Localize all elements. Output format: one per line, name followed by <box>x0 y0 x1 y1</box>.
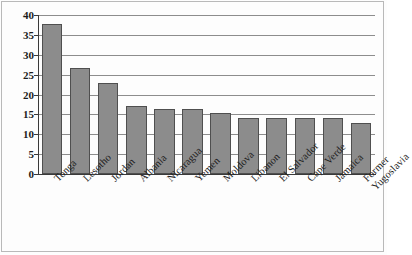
y-axis-tick-label: 35 <box>4 29 34 40</box>
y-axis-tick-label: 30 <box>4 49 34 60</box>
y-axis-tick-label: 15 <box>4 109 34 120</box>
y-axis-tick-label: 10 <box>4 129 34 140</box>
y-axis-tick-label: 40 <box>4 10 34 21</box>
y-axis: 0510152025303540 <box>0 15 34 175</box>
y-axis-tick-label: 5 <box>4 149 34 160</box>
y-axis-tick-label: 0 <box>4 169 34 180</box>
bar[interactable] <box>42 24 63 174</box>
y-axis-tick-label: 20 <box>4 89 34 100</box>
bars-layer <box>38 15 375 174</box>
x-axis-labels: TongaLesothoJordanAlbaniaNicaraguaYemenM… <box>38 176 378 254</box>
y-axis-tick-label: 25 <box>4 69 34 80</box>
